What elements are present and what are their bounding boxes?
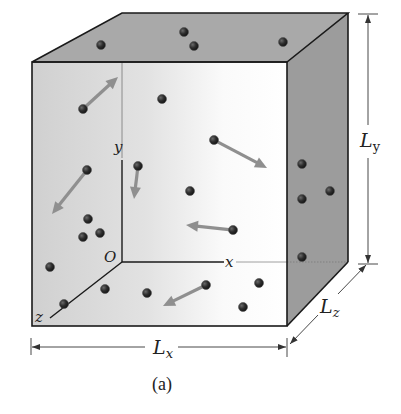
molecule [83,166,92,175]
ly-subscript: y [372,139,381,154]
lx-main: L [152,336,166,358]
ly-label: Ly [359,129,381,154]
molecule [298,195,307,204]
molecule [186,187,195,196]
molecule [180,28,189,37]
molecule [46,263,55,272]
molecule [97,41,106,50]
molecule [229,226,238,235]
molecule [326,187,335,196]
origin-label: O [104,248,116,266]
lz-subscript: z [332,305,340,320]
lx-dimension: Lx [31,336,287,361]
molecule [101,285,110,294]
lz-label: Lz [319,295,340,320]
box-right-face [287,13,348,326]
molecule [239,303,248,312]
molecule [298,160,307,169]
molecule [255,279,264,288]
molecule [96,229,105,238]
molecule [298,253,307,262]
molecule [143,289,152,298]
z-axis-label: z [34,308,43,326]
molecule [84,215,93,224]
molecule [158,95,167,104]
lx-subscript: x [166,346,174,361]
molecule [279,38,288,47]
lz-main: L [319,295,333,317]
ly-dimension: Ly [358,14,381,264]
molecule [210,136,219,145]
molecule [79,105,88,114]
lx-label: Lx [152,336,174,361]
molecule [190,42,199,51]
ly-main: L [359,129,373,151]
lz-arrow-up [338,265,366,294]
box [32,13,348,326]
molecule [134,162,143,171]
molecule [202,281,211,290]
molecule [79,233,88,242]
figure-caption: (a) [152,374,172,395]
x-axis-label: x [225,253,234,271]
molecules-in-box-diagram: y x O z Ly Lx Lz (a) [0,0,401,414]
molecule [60,300,69,309]
y-axis-label: y [113,138,123,156]
